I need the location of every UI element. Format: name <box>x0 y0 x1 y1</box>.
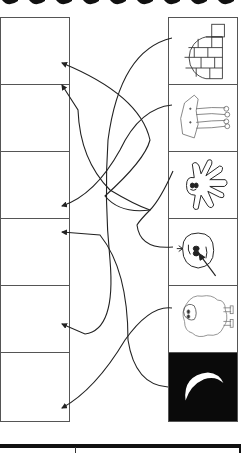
picture-cell-octopus <box>169 152 237 219</box>
answer-box-2[interactable] <box>1 85 69 152</box>
answer-box-3[interactable] <box>1 152 69 219</box>
top-decorative-border <box>0 0 241 8</box>
bottom-border <box>0 444 241 448</box>
picture-cell-elephant <box>169 85 237 152</box>
line-elephant <box>62 105 172 206</box>
igloo-icon <box>169 18 237 84</box>
line-sheep <box>62 308 172 408</box>
octopus-icon <box>169 152 237 218</box>
line-octopus <box>62 63 173 211</box>
answer-box-6[interactable] <box>1 353 69 421</box>
line-moon <box>62 232 168 387</box>
answer-box-5[interactable] <box>1 286 69 353</box>
line-face <box>62 85 173 247</box>
picture-cell-igloo <box>169 18 237 85</box>
sheep-icon <box>169 286 237 352</box>
picture-column <box>168 17 238 422</box>
picture-cell-moon <box>169 353 237 421</box>
bottom-tick-mark <box>75 447 76 453</box>
line-igloo <box>62 38 172 334</box>
moon-icon <box>169 353 237 421</box>
answer-box-4[interactable] <box>1 219 69 286</box>
answer-box-1[interactable] <box>1 18 69 85</box>
answer-box-column <box>0 17 70 422</box>
bottom-border-end <box>239 444 241 453</box>
elephant-icon <box>169 85 237 151</box>
picture-cell-sheep <box>169 286 237 353</box>
picture-cell-face <box>169 219 237 286</box>
face-with-arrow-icon <box>169 219 237 285</box>
